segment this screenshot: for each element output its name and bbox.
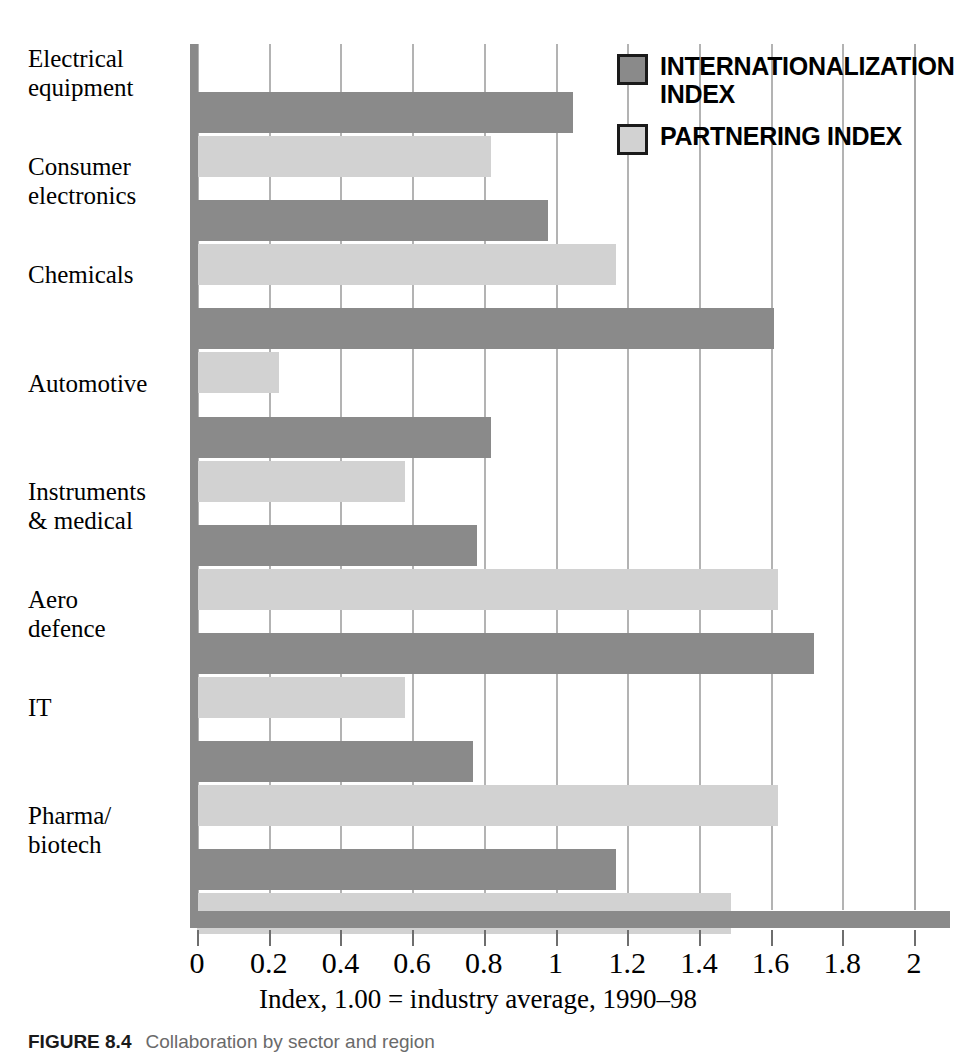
- legend-label-partnering-index: PARTNERING INDEX: [660, 122, 902, 150]
- x-axis-tick: [340, 930, 342, 946]
- bar-internationalization-index: [197, 200, 548, 241]
- x-axis-tick: [556, 930, 558, 946]
- x-axis-tick: [269, 930, 271, 946]
- legend-label-internationalization-index: INTERNATIONALIZATION INDEX: [660, 52, 954, 108]
- x-axis-tick-label: 1.8: [824, 946, 862, 980]
- y-axis-spine: [190, 44, 198, 928]
- x-axis-tick-label: 1: [548, 946, 563, 980]
- legend-swatch-partnering-index: [617, 124, 648, 155]
- bar-internationalization-index: [197, 417, 491, 458]
- x-axis-tick-label: 1.6: [752, 946, 790, 980]
- bar-internationalization-index: [197, 849, 616, 890]
- x-axis-tick-label: 0.8: [465, 946, 503, 980]
- x-axis-tick-label: 0: [190, 946, 205, 980]
- bar-partnering-index: [197, 785, 778, 826]
- gridline: [699, 44, 701, 910]
- legend-swatch-internationalization-index: [617, 54, 648, 85]
- legend-item-partnering-index: PARTNERING INDEX: [617, 122, 917, 155]
- x-axis-tick: [771, 930, 773, 946]
- x-axis-tick: [914, 930, 916, 946]
- x-axis-tick-label: 0.6: [393, 946, 431, 980]
- category-label: IT: [28, 693, 188, 722]
- chart-legend: INTERNATIONALIZATION INDEX PARTNERING IN…: [617, 52, 917, 169]
- legend-item-internationalization-index: INTERNATIONALIZATION INDEX: [617, 52, 917, 108]
- gridline: [556, 44, 558, 910]
- x-axis-tick: [197, 930, 199, 946]
- bar-partnering-index: [197, 352, 279, 393]
- bar-internationalization-index: [197, 633, 814, 674]
- category-label: Instruments & medical: [28, 477, 188, 535]
- x-axis-title: Index, 1.00 = industry average, 1990–98: [0, 984, 956, 1015]
- gridline: [914, 44, 916, 910]
- x-axis-spine: [190, 911, 950, 928]
- x-axis-tick-label: 1.2: [608, 946, 646, 980]
- figure-caption-label: FIGURE 8.4: [28, 1031, 131, 1052]
- x-axis-tick: [484, 930, 486, 946]
- figure-caption-text: Collaboration by sector and region: [145, 1031, 434, 1052]
- gridline: [627, 44, 629, 910]
- x-axis-tick-label: 1.4: [680, 946, 718, 980]
- bar-internationalization-index: [197, 741, 473, 782]
- x-axis-tick: [627, 930, 629, 946]
- category-label: Chemicals: [28, 260, 188, 289]
- category-label: Electrical equipment: [28, 44, 188, 102]
- x-axis-tick-label: 2: [907, 946, 922, 980]
- figure-caption: FIGURE 8.4Collaboration by sector and re…: [28, 1030, 928, 1053]
- x-axis-tick: [699, 930, 701, 946]
- category-label: Automotive: [28, 369, 188, 398]
- category-label: Pharma/ biotech: [28, 801, 188, 859]
- bar-partnering-index: [197, 244, 616, 285]
- bar-internationalization-index: [197, 525, 477, 566]
- category-label: Consumer electronics: [28, 152, 188, 210]
- bar-partnering-index: [197, 677, 405, 718]
- bar-partnering-index: [197, 569, 778, 610]
- x-axis-tick-label: 0.2: [250, 946, 288, 980]
- gridline: [771, 44, 773, 910]
- x-axis-tick-label: 0.4: [322, 946, 360, 980]
- x-axis-tick: [412, 930, 414, 946]
- gridline: [842, 44, 844, 910]
- bar-partnering-index: [197, 461, 405, 502]
- x-axis-tick: [842, 930, 844, 946]
- plot-area: [197, 44, 914, 910]
- bar-internationalization-index: [197, 92, 573, 133]
- category-label: Aero defence: [28, 585, 188, 643]
- bar-partnering-index: [197, 136, 491, 177]
- bar-internationalization-index: [197, 308, 774, 349]
